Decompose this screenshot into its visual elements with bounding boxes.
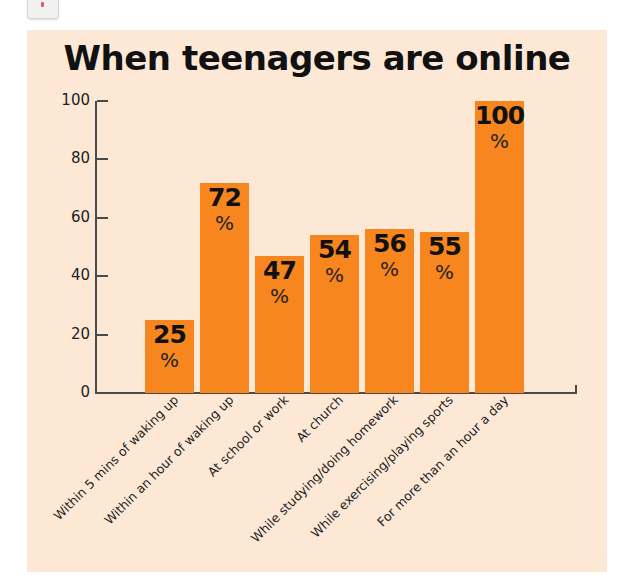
y-tick-label: 100 (50, 91, 90, 109)
y-tick-label: 40 (50, 266, 90, 284)
y-tick (97, 275, 108, 277)
bar-value-label: 100 (469, 103, 530, 129)
y-tick-label: 60 (50, 208, 90, 226)
bar-value-label: 54 (304, 237, 365, 263)
bar-value-label: 47 (249, 258, 310, 284)
note-icon-mark (41, 2, 44, 7)
bar: 56% (365, 229, 414, 393)
y-tick-label: 80 (50, 149, 90, 167)
y-tick (97, 158, 108, 160)
bar-unit-label: % (255, 286, 304, 306)
y-tick (97, 217, 108, 219)
bar-unit-label: % (475, 131, 524, 151)
bar-value-label: 72 (194, 185, 255, 211)
y-tick (97, 334, 108, 336)
y-tick (97, 100, 108, 102)
bar-unit-label: % (145, 350, 194, 370)
bar-unit-label: % (420, 262, 469, 282)
bar: 47% (255, 256, 304, 393)
bar-unit-label: % (310, 265, 359, 285)
bar: 100% (475, 101, 524, 393)
y-axis (95, 101, 97, 393)
bar-value-label: 56 (359, 231, 420, 257)
chart-title: When teenagers are online (27, 38, 607, 78)
bar-value-label: 25 (139, 322, 200, 348)
x-axis-end-tick (575, 385, 577, 394)
bar-unit-label: % (200, 213, 249, 233)
bar-value-label: 55 (414, 234, 475, 260)
bar: 55% (420, 232, 469, 393)
y-tick-label: 0 (50, 383, 90, 401)
bar: 25% (145, 320, 194, 393)
y-tick-label: 20 (50, 325, 90, 343)
bar: 54% (310, 235, 359, 393)
bar: 72% (200, 183, 249, 393)
bar-unit-label: % (365, 259, 414, 279)
note-icon[interactable] (27, 0, 59, 19)
